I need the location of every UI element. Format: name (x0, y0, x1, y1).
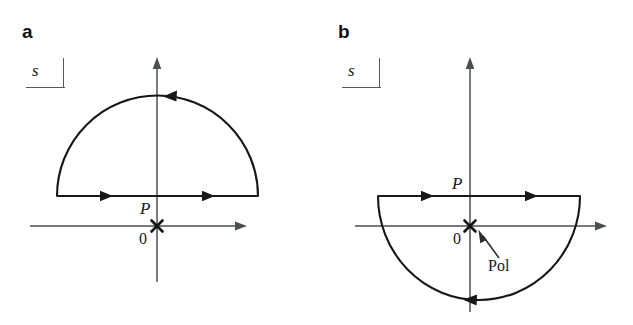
contour-label-b: P (452, 175, 462, 192)
panel-a-diagram (0, 0, 316, 325)
contour-label-a: P (140, 200, 150, 217)
panel-a: a s P 0 (0, 0, 316, 325)
panel-b: b s (317, 0, 633, 325)
segment-arrowhead-left-icon (100, 191, 113, 201)
arc-arrowhead-icon (163, 91, 177, 102)
origin-label-b: 0 (453, 231, 461, 247)
pole-annotation-label: Pol (488, 258, 509, 274)
real-axis-arrowhead-icon (235, 222, 247, 231)
panel-b-diagram (317, 0, 633, 325)
imaginary-axis-arrowhead-icon (466, 57, 475, 69)
segment-arrowhead-right-icon (525, 191, 538, 201)
segment-arrowhead-left-icon (421, 191, 434, 201)
imaginary-axis-arrowhead-icon (153, 57, 162, 69)
pole-annotation-arrowhead-icon (479, 230, 487, 244)
origin-label-a: 0 (139, 231, 147, 247)
contour-path-b (378, 196, 580, 300)
figure-root: a s P 0 (0, 0, 633, 325)
real-axis-arrowhead-icon (595, 222, 607, 231)
segment-arrowhead-right-icon (202, 191, 215, 201)
